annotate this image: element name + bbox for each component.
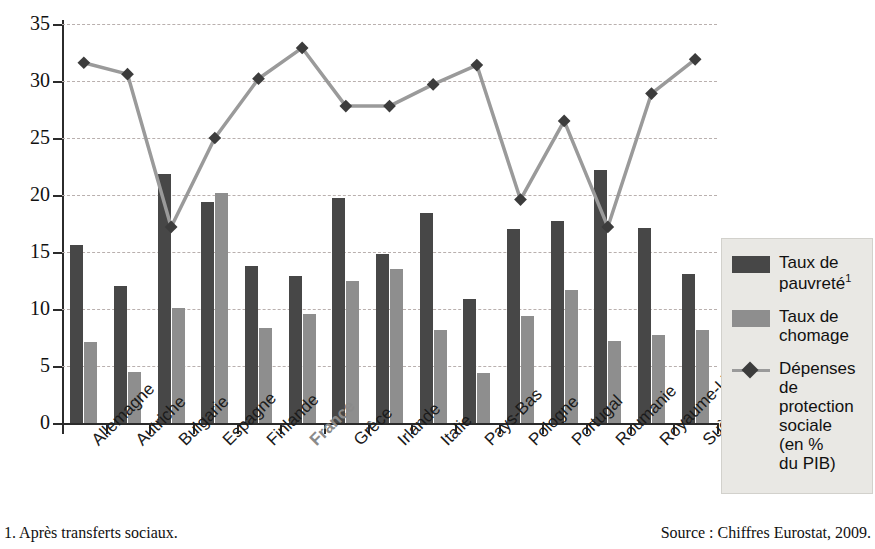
y-tick-label: 15 xyxy=(6,240,50,263)
legend-line-1: Taux de xyxy=(779,253,839,272)
bar-taux-de-pauvrete xyxy=(638,228,651,423)
line-marker-diamond xyxy=(558,115,571,128)
y-tick-label: 0 xyxy=(6,411,50,434)
legend-label-taux-de-chomage: Taux de chomage xyxy=(779,307,849,345)
gridline xyxy=(62,24,717,25)
y-tick-mark xyxy=(53,366,62,368)
y-tick-mark xyxy=(53,195,62,197)
bar-taux-de-pauvrete xyxy=(70,245,83,423)
y-tick-label: 25 xyxy=(6,126,50,149)
legend-swatch-dark-icon xyxy=(732,256,770,273)
legend-footnote-ref: 1 xyxy=(845,272,851,284)
legend-line-1: Taux de xyxy=(779,307,839,326)
bar-taux-de-pauvrete xyxy=(463,299,476,423)
legend-item-depenses-protection-sociale: Dépenses de protection sociale (en % du … xyxy=(732,359,864,473)
bar-taux-de-pauvrete xyxy=(420,213,433,423)
legend-swatch-light-icon xyxy=(732,310,770,327)
y-tick-label: 35 xyxy=(6,12,50,35)
legend-line-2: chomage xyxy=(779,326,849,345)
bar-taux-de-pauvrete xyxy=(201,202,214,423)
y-tick-mark xyxy=(53,138,62,140)
bar-taux-de-pauvrete xyxy=(376,254,389,423)
chart-figure: 05101520253035 AllemagneAutricheBulgarie… xyxy=(0,0,875,549)
footnote-text: 1. Après transferts sociaux. xyxy=(4,524,178,542)
y-tick-label: 30 xyxy=(6,69,50,92)
line-marker-diamond xyxy=(252,72,265,85)
legend-label-taux-de-pauvrete: Taux de pauvreté1 xyxy=(779,253,851,293)
gridline xyxy=(62,81,717,82)
legend-line-4: sociale xyxy=(779,416,832,435)
legend-label-depenses: Dépenses de protection sociale (en % du … xyxy=(779,359,856,473)
line-marker-diamond xyxy=(121,68,134,81)
y-tick-label: 10 xyxy=(6,297,50,320)
legend-item-taux-de-pauvrete: Taux de pauvreté1 xyxy=(732,253,864,293)
legend-line-2: pauvreté xyxy=(779,274,845,293)
bar-taux-de-pauvrete xyxy=(332,198,345,423)
legend-line-6: du PIB) xyxy=(779,454,836,473)
line-marker-diamond xyxy=(383,100,396,113)
y-tick-mark xyxy=(53,252,62,254)
line-marker-diamond xyxy=(645,87,658,100)
y-tick-mark xyxy=(53,81,62,83)
line-marker-diamond xyxy=(470,59,483,72)
legend-diamond-line-icon xyxy=(732,362,770,379)
bar-taux-de-pauvrete xyxy=(507,229,520,423)
y-tick-label: 20 xyxy=(6,183,50,206)
bar-taux-de-pauvrete xyxy=(158,174,171,423)
bar-taux-de-pauvrete xyxy=(551,221,564,423)
line-marker-diamond xyxy=(296,42,309,55)
bar-taux-de-chomage xyxy=(477,373,490,423)
legend-diamond-marker xyxy=(742,361,759,378)
source-text: Source : Chiffres Eurostat, 2009. xyxy=(661,524,871,542)
legend-line-1: Dépenses xyxy=(779,359,856,378)
legend-line-2: de xyxy=(779,378,798,397)
legend-line-3: protection xyxy=(779,397,854,416)
bar-taux-de-chomage xyxy=(84,342,97,423)
y-tick-label: 5 xyxy=(6,354,50,377)
legend-item-taux-de-chomage: Taux de chomage xyxy=(732,307,864,345)
legend-line-5: (en % xyxy=(779,435,823,454)
bar-taux-de-chomage xyxy=(390,269,403,423)
line-marker-diamond xyxy=(427,78,440,91)
plot-area xyxy=(62,24,717,423)
bar-taux-de-chomage xyxy=(215,193,228,423)
line-marker-diamond xyxy=(689,53,702,66)
x-tick-mark xyxy=(62,423,64,434)
y-axis-labels: 05101520253035 xyxy=(0,24,50,423)
chart-legend: Taux de pauvreté1 Taux de chomage Dépens… xyxy=(721,238,873,494)
bar-taux-de-pauvrete xyxy=(594,170,607,423)
y-tick-mark xyxy=(53,309,62,311)
line-marker-diamond xyxy=(77,56,90,69)
y-tick-mark xyxy=(53,423,62,425)
y-tick-mark xyxy=(53,24,62,26)
line-marker-diamond xyxy=(339,100,352,113)
gridline xyxy=(62,138,717,139)
